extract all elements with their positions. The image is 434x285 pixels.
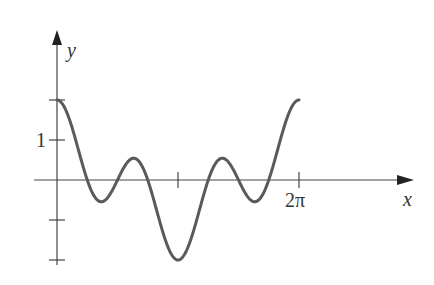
y-axis-label: y — [65, 39, 76, 62]
chart-canvas: y x 1 2π — [0, 0, 434, 285]
x-axis-label: x — [402, 188, 412, 210]
x-tick-label-2pi: 2π — [285, 189, 305, 211]
y-axis-arrow-icon — [52, 30, 62, 45]
y-tick-label-1: 1 — [36, 129, 46, 151]
x-axis-arrow-icon — [397, 175, 414, 185]
